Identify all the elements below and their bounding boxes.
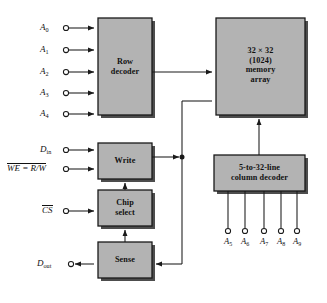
block-row-decoder <box>98 18 152 115</box>
pin-label-a2: A2 <box>40 66 49 77</box>
memory-block-diagram: Row decoder 32 × 32 (1024) memory array … <box>0 0 327 303</box>
block-memory-array <box>216 18 305 115</box>
pin-label-a4: A4 <box>40 108 49 119</box>
pin-label-cs: CS <box>42 205 53 215</box>
block-column-decoder <box>214 155 305 191</box>
control-input-terminals <box>63 147 68 213</box>
row-address-terminals <box>63 25 68 116</box>
pin-label-dout: Dout <box>37 258 51 269</box>
control-input-wires <box>69 150 94 211</box>
block-sense <box>98 242 152 278</box>
pin-label-a6: A6 <box>235 236 255 247</box>
pin-label-a0: A0 <box>40 22 49 33</box>
row-address-wires <box>69 28 94 114</box>
column-address-stems <box>228 191 297 228</box>
pin-label-a1: A1 <box>40 44 49 55</box>
column-address-terminals <box>225 228 299 233</box>
dout-terminal <box>68 261 73 266</box>
pin-label-we: WE = R/W <box>7 163 46 173</box>
pin-label-din: Din <box>40 144 51 155</box>
pin-label-a9: A9 <box>287 236 307 247</box>
block-write <box>98 143 152 179</box>
block-chip-select <box>98 190 152 226</box>
pin-label-a3: A3 <box>40 87 49 98</box>
